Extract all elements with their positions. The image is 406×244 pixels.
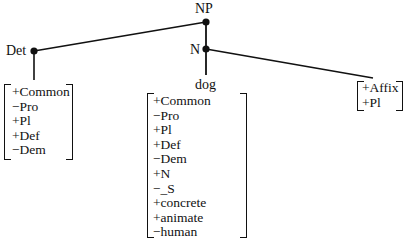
- feature-item: +Def: [12, 129, 70, 144]
- feature-item: +Def: [153, 138, 211, 153]
- right-bracket: [240, 93, 247, 238]
- feature-item: +N: [153, 167, 211, 182]
- feature-item: −_S: [153, 182, 211, 197]
- feature-item: +Common: [12, 85, 70, 100]
- feature-item: +Pl: [362, 96, 399, 111]
- node-dot-n: [202, 45, 209, 52]
- det-feature-list: +Common −Pro +Pl +Def −Dem: [12, 85, 70, 158]
- feature-item: +Affix: [362, 81, 399, 96]
- feature-item: +Pl: [153, 123, 211, 138]
- affix-feature-list: +Affix +Pl: [362, 81, 399, 110]
- feature-item: −human: [153, 225, 211, 240]
- noun-word-dog: dog: [195, 78, 216, 92]
- det-feature-matrix: +Common −Pro +Pl +Def −Dem: [4, 84, 73, 160]
- feature-item: −Dem: [153, 152, 211, 167]
- feature-item: +animate: [153, 211, 211, 226]
- feature-item: +Pl: [12, 114, 70, 129]
- node-dot-det: [30, 47, 37, 54]
- feature-item: −Pro: [153, 109, 211, 124]
- left-bracket: [4, 84, 11, 160]
- node-dot-np: [202, 18, 209, 25]
- node-label-n: N: [190, 43, 200, 57]
- noun-feature-matrix: +Common −Pro +Pl +Def −Dem +N −_S +concr…: [147, 93, 247, 238]
- feature-item: −Pro: [12, 100, 70, 115]
- edge-np-det: [34, 22, 206, 51]
- feature-item: +Common: [153, 94, 211, 109]
- node-label-np: NP: [195, 2, 213, 16]
- feature-item: −Dem: [12, 143, 70, 158]
- affix-feature-matrix: +Affix +Pl: [357, 81, 403, 111]
- feature-item: +concrete: [153, 196, 211, 211]
- noun-feature-list: +Common −Pro +Pl +Def −Dem +N −_S +concr…: [153, 94, 211, 240]
- edge-n-affix: [206, 49, 373, 78]
- node-label-det: Det: [6, 44, 26, 58]
